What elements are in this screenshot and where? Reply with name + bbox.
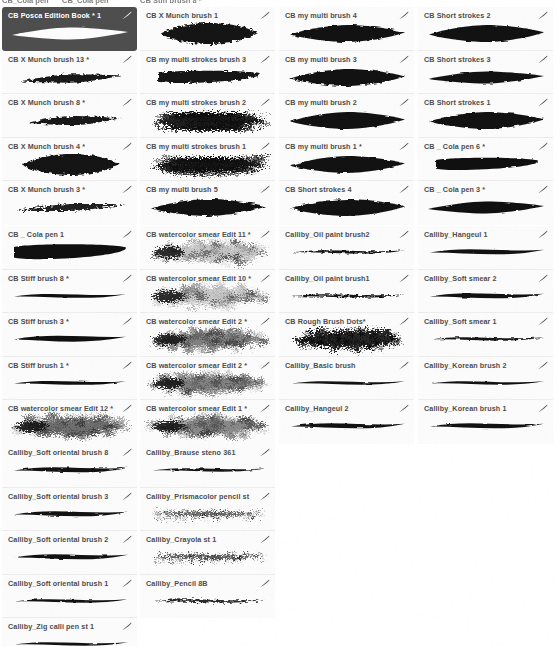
- brush-stroke-edit-icon[interactable]: [259, 448, 270, 457]
- brush-stroke-edit-icon[interactable]: [537, 98, 548, 107]
- brush-stroke-edit-icon[interactable]: [398, 98, 409, 107]
- brush-card[interactable]: Calliby_Crayola st 1: [140, 531, 275, 575]
- brush-card[interactable]: CB _ Cola pen 3 *: [418, 181, 553, 225]
- brush-card[interactable]: Calliby_Hangeul 2: [279, 400, 414, 444]
- brush-card[interactable]: CB X Munch brush 8 *: [2, 94, 137, 138]
- brush-name-label: CB my multi strokes brush 2: [146, 98, 246, 107]
- brush-card[interactable]: CB Short strokes 4: [279, 181, 414, 225]
- brush-card[interactable]: CB my multi brush 4: [279, 7, 414, 51]
- brush-stroke-edit-icon[interactable]: [537, 185, 548, 194]
- brush-card[interactable]: CB my multi strokes brush 1: [140, 138, 275, 182]
- brush-card[interactable]: CB watercolor smear Edit 2 *: [140, 313, 275, 357]
- brush-card[interactable]: Calliby_Oil paint brush2: [279, 226, 414, 270]
- brush-card[interactable]: Calliby_Pencil 8B: [140, 575, 275, 619]
- brush-stroke-edit-icon[interactable]: [259, 230, 270, 239]
- brush-card[interactable]: CB watercolor smear Edit 2 *: [140, 357, 275, 401]
- brush-stroke-edit-icon[interactable]: [259, 317, 270, 326]
- brush-card[interactable]: CB Short strokes 1: [418, 94, 553, 138]
- brush-stroke-edit-icon[interactable]: [259, 185, 270, 194]
- brush-stroke-edit-icon[interactable]: [259, 142, 270, 151]
- brush-stroke-edit-icon[interactable]: [398, 404, 409, 413]
- brush-card[interactable]: CB Stiff brush 1 *: [2, 357, 137, 401]
- brush-stroke-edit-icon[interactable]: [121, 492, 132, 501]
- brush-stroke-edit-icon[interactable]: [121, 448, 132, 457]
- brush-stroke-edit-icon[interactable]: [121, 230, 132, 239]
- brush-stroke-edit-icon[interactable]: [121, 622, 132, 631]
- brush-card[interactable]: Calliby_Soft oriental brush 8: [2, 444, 137, 488]
- brush-stroke-edit-icon[interactable]: [259, 361, 270, 370]
- brush-card[interactable]: Calliby_Hangeul 1: [418, 226, 553, 270]
- brush-card[interactable]: Calliby_Soft smear 2: [418, 270, 553, 314]
- brush-card[interactable]: Calliby_Oil paint brush1: [279, 270, 414, 314]
- brush-stroke-edit-icon[interactable]: [259, 11, 270, 20]
- brush-stroke-edit-icon[interactable]: [121, 11, 132, 20]
- brush-card[interactable]: CB my multi strokes brush 2: [140, 94, 275, 138]
- brush-stroke-edit-icon[interactable]: [121, 579, 132, 588]
- brush-card[interactable]: Calliby_Zig calli pen st 1: [2, 618, 137, 646]
- brush-stroke-edit-icon[interactable]: [537, 55, 548, 64]
- brush-stroke-edit-icon[interactable]: [537, 230, 548, 239]
- brush-card[interactable]: CB X Munch brush 13 *: [2, 51, 137, 95]
- brush-stroke-edit-icon[interactable]: [398, 11, 409, 20]
- brush-card[interactable]: CB X Munch brush 1: [140, 7, 275, 51]
- brush-stroke-edit-icon[interactable]: [537, 11, 548, 20]
- brush-stroke-edit-icon[interactable]: [259, 404, 270, 413]
- brush-card[interactable]: CB Short strokes 3: [418, 51, 553, 95]
- brush-stroke-edit-icon[interactable]: [398, 55, 409, 64]
- brush-card[interactable]: CB X Munch brush 3 *: [2, 181, 137, 225]
- brush-card[interactable]: CB watercolor smear Edit 1 *: [140, 400, 275, 444]
- brush-stroke-edit-icon[interactable]: [121, 317, 132, 326]
- brush-stroke-edit-icon[interactable]: [121, 142, 132, 151]
- brush-stroke-edit-icon[interactable]: [537, 142, 548, 151]
- brush-card[interactable]: CB Stiff brush 8 *: [2, 270, 137, 314]
- brush-card[interactable]: Calliby_Soft smear 1: [418, 313, 553, 357]
- brush-card[interactable]: CB watercolor smear Edit 12 *: [2, 400, 137, 444]
- brush-card[interactable]: Calliby_Korean brush 2: [418, 357, 553, 401]
- brush-card[interactable]: Calliby_Soft oriental brush 2: [2, 531, 137, 575]
- brush-card[interactable]: CB my multi strokes brush 3: [140, 51, 275, 95]
- brush-card[interactable]: CB watercolor smear Edit 10 *: [140, 270, 275, 314]
- brush-stroke-edit-icon[interactable]: [259, 98, 270, 107]
- brush-card[interactable]: CB my multi brush 5: [140, 181, 275, 225]
- brush-card[interactable]: Calliby_Korean brush 1: [418, 400, 553, 444]
- brush-stroke-edit-icon[interactable]: [398, 274, 409, 283]
- brush-stroke-edit-icon[interactable]: [121, 98, 132, 107]
- brush-stroke-edit-icon[interactable]: [398, 317, 409, 326]
- brush-stroke-edit-icon[interactable]: [121, 185, 132, 194]
- brush-stroke-edit-icon[interactable]: [121, 361, 132, 370]
- brush-card[interactable]: CB _ Cola pen 6 *: [418, 138, 553, 182]
- brush-card[interactable]: Calliby_Prismacolor pencil st: [140, 488, 275, 532]
- brush-card[interactable]: CB my multi brush 1 *: [279, 138, 414, 182]
- brush-card[interactable]: CB Rough Brush Dots*: [279, 313, 414, 357]
- brush-stroke-edit-icon[interactable]: [537, 317, 548, 326]
- brush-name-label: Calliby_Prismacolor pencil st: [146, 492, 249, 501]
- brush-card[interactable]: Calliby_Soft oriental brush 1: [2, 575, 137, 619]
- brush-stroke-edit-icon[interactable]: [121, 404, 132, 413]
- brush-stroke-edit-icon[interactable]: [537, 404, 548, 413]
- brush-card[interactable]: Calliby_Basic brush: [279, 357, 414, 401]
- brush-card-selected[interactable]: CB Posca Edition Book * 1: [2, 7, 137, 51]
- brush-stroke-edit-icon[interactable]: [259, 579, 270, 588]
- brush-stroke-edit-icon[interactable]: [259, 492, 270, 501]
- brush-stroke-edit-icon[interactable]: [398, 142, 409, 151]
- brush-card[interactable]: CB X Munch brush 4 *: [2, 138, 137, 182]
- brush-stroke-edit-icon[interactable]: [121, 274, 132, 283]
- brush-stroke-edit-icon[interactable]: [121, 535, 132, 544]
- brush-stroke-edit-icon[interactable]: [537, 361, 548, 370]
- brush-card[interactable]: CB my multi brush 2: [279, 94, 414, 138]
- brush-card[interactable]: Calliby_Brause steno 361: [140, 444, 275, 488]
- brush-card[interactable]: CB Stiff brush 3 *: [2, 313, 137, 357]
- brush-stroke-edit-icon[interactable]: [398, 230, 409, 239]
- brush-card[interactable]: CB watercolor smear Edit 11 *: [140, 226, 275, 270]
- brush-stroke-edit-icon[interactable]: [121, 55, 132, 64]
- brush-card[interactable]: CB Short strokes 2: [418, 7, 553, 51]
- brush-stroke-edit-icon[interactable]: [398, 361, 409, 370]
- brush-card[interactable]: Calliby_Soft oriental brush 3: [2, 488, 137, 532]
- brush-stroke-edit-icon[interactable]: [259, 274, 270, 283]
- brush-card[interactable]: CB _ Cola pen 1: [2, 226, 137, 270]
- brush-card[interactable]: CB my multi brush 3: [279, 51, 414, 95]
- brush-stroke-edit-icon[interactable]: [537, 274, 548, 283]
- brush-stroke-edit-icon[interactable]: [259, 535, 270, 544]
- brush-stroke-edit-icon[interactable]: [259, 55, 270, 64]
- brush-stroke-edit-icon[interactable]: [398, 185, 409, 194]
